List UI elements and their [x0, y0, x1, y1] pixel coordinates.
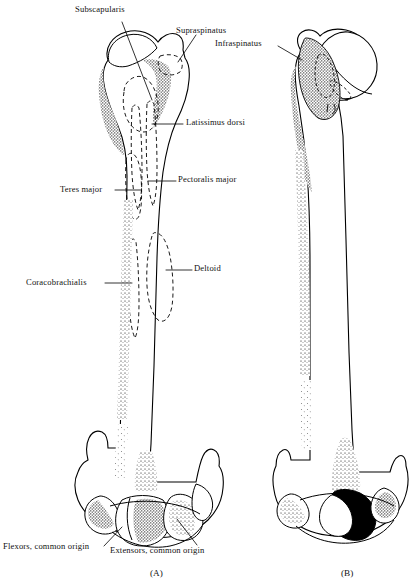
label-extensors-common-origin: Extensors, common origin: [110, 545, 205, 555]
label-supraspinatus: Supraspinatus: [176, 25, 226, 35]
label-deltoid: Deltoid: [194, 263, 221, 273]
label-subscapularis: Subscapularis: [75, 4, 125, 14]
label-teres-major: Teres major: [60, 184, 102, 194]
humerus-panel-a: [75, 31, 223, 548]
label-pectoralis-major: Pectoralis major: [178, 174, 236, 184]
shading-shaft-lateral-lower-b: [300, 380, 313, 450]
panel-label-b: (B): [341, 568, 353, 578]
humerus-illustration: [0, 0, 413, 588]
label-flexors-common-origin: Flexors, common origin: [3, 541, 89, 551]
label-latissimus-dorsi: Latissimus dorsi: [186, 117, 245, 127]
humerus-panel-b: [273, 29, 408, 543]
anatomical-figure: Subscapularis Supraspinatus Infraspinatu…: [0, 0, 413, 588]
panel-label-a: (A): [150, 568, 163, 578]
label-coracobrachialis: Coracobrachialis: [26, 277, 87, 287]
leader-infraspinatus-b: [278, 46, 302, 60]
label-infraspinatus: Infraspinatus: [215, 38, 262, 48]
capitulum-shading-a: [169, 500, 195, 536]
